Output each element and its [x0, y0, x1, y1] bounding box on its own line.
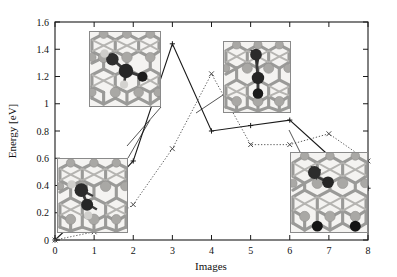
y-tick-label: 1.6	[37, 17, 50, 28]
x-tick-label: 4	[209, 245, 214, 256]
inset-structure-top-right	[223, 41, 291, 113]
molecular-structure-diagram	[58, 159, 127, 232]
y-tick-label: 0.8	[37, 126, 50, 137]
y-axis-label: Energy [eV]	[6, 104, 18, 158]
chart-canvas: 012345678 00.20.40.60.811.21.41.6 Images…	[0, 0, 397, 277]
y-tick-label: 0.6	[37, 153, 50, 164]
y-tick-label: 1.2	[37, 71, 50, 82]
x-tick-label: 7	[326, 245, 331, 256]
x-tick-label: 6	[287, 245, 292, 256]
y-tick-label: 0	[44, 235, 49, 246]
y-tick-label: 1	[44, 98, 49, 109]
x-tick-label: 0	[53, 245, 58, 256]
inset-structure-top-left	[89, 31, 161, 107]
molecular-structure-diagram	[90, 32, 160, 106]
molecular-structure-diagram	[224, 42, 290, 112]
x-axis-tick-labels: 012345678	[53, 245, 371, 256]
y-tick-label: 0.2	[37, 207, 50, 218]
x-tick-label: 1	[92, 245, 97, 256]
x-tick-label: 5	[248, 245, 253, 256]
x-tick-label: 8	[366, 245, 371, 256]
x-tick-label: 2	[131, 245, 136, 256]
inset-structure-bottom-right	[290, 152, 368, 233]
x-axis-label: Images	[195, 260, 227, 272]
y-tick-label: 1.4	[37, 44, 50, 55]
y-tick-label: 0.4	[37, 180, 50, 191]
molecular-structure-diagram	[291, 153, 367, 232]
inset-structure-bottom-left	[57, 158, 128, 233]
figure-container: 012345678 00.20.40.60.811.21.41.6 Images…	[0, 0, 397, 277]
y-axis-tick-labels: 00.20.40.60.811.21.41.6	[37, 17, 50, 246]
x-tick-label: 3	[170, 245, 175, 256]
